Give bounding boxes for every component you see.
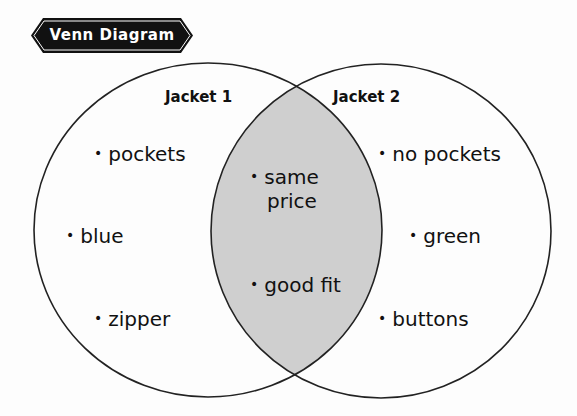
- list-item: •same: [250, 163, 319, 190]
- list-item: •no pockets: [378, 140, 501, 167]
- overlap-region: [211, 64, 551, 398]
- list-item: •buttons: [378, 305, 469, 332]
- list-item: •pockets: [94, 140, 186, 167]
- item-text: pockets: [108, 142, 185, 166]
- item-text: blue: [80, 224, 123, 248]
- list-item: •blue: [66, 222, 124, 249]
- title: Venn Diagram: [31, 18, 193, 53]
- bullet-icon: •: [94, 145, 102, 161]
- item-text: buttons: [392, 307, 468, 331]
- set-label-jacket-1: Jacket 1: [165, 88, 232, 106]
- bullet-icon: •: [66, 227, 74, 243]
- list-item: •zipper: [94, 305, 170, 332]
- bullet-icon: •: [250, 168, 258, 184]
- item-text: no pockets: [392, 142, 501, 166]
- bullet-icon: •: [378, 310, 386, 326]
- list-item: •good fit: [250, 271, 341, 298]
- bullet-icon: •: [250, 276, 258, 292]
- bullet-icon: •: [378, 145, 386, 161]
- item-text: good fit: [264, 273, 341, 297]
- bullet-icon: •: [409, 227, 417, 243]
- item-text: zipper: [108, 307, 170, 331]
- list-item-continuation: price: [267, 188, 317, 214]
- item-text: green: [423, 224, 481, 248]
- title-banner: Venn Diagram: [31, 18, 193, 53]
- venn-diagram-page: Venn Diagram Jacket 1 Jacket 2 •pockets …: [0, 0, 577, 416]
- set-label-jacket-2: Jacket 2: [333, 88, 400, 106]
- item-text: same: [264, 165, 318, 189]
- bullet-icon: •: [94, 310, 102, 326]
- item-text: price: [267, 189, 317, 213]
- list-item: •green: [409, 222, 481, 249]
